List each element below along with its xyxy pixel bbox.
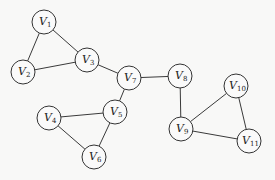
node-v7: V7	[117, 66, 141, 90]
node-v2: V2	[11, 60, 35, 84]
edge-v1-v3	[53, 30, 78, 52]
edge-v7-v8	[141, 76, 168, 77]
node-v11: V11	[237, 129, 261, 153]
edge-v10-v11	[239, 98, 246, 130]
node-v6: V6	[82, 145, 106, 169]
edge-v4-v5	[61, 113, 103, 117]
node-v3: V3	[75, 48, 99, 72]
node-v9: V9	[169, 117, 193, 141]
undirected-graph: V1V2V3V4V5V6V7V8V9V10V11	[0, 0, 275, 180]
node-layer: V1V2V3V4V5V6V7V8V9V10V11	[11, 10, 261, 169]
node-v10: V10	[224, 74, 248, 98]
node-v1: V1	[32, 10, 56, 34]
edge-v4-v6	[58, 126, 85, 149]
edge-v9-v11	[193, 131, 237, 139]
edge-v2-v3	[35, 62, 75, 70]
edge-layer	[28, 30, 247, 149]
edge-v8-v9	[180, 88, 181, 117]
node-v4: V4	[37, 106, 61, 130]
graph-canvas: V1V2V3V4V5V6V7V8V9V10V11	[0, 0, 275, 180]
edge-v5-v6	[99, 123, 110, 146]
edge-v1-v2	[28, 33, 40, 61]
edge-v7-v5	[120, 89, 125, 101]
node-v5: V5	[103, 100, 127, 124]
node-v8: V8	[168, 64, 192, 88]
edge-v3-v7	[98, 65, 118, 74]
edge-v9-v10	[190, 93, 226, 121]
